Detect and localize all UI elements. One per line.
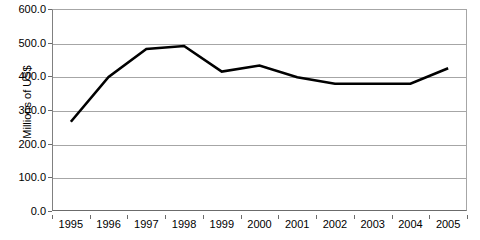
x-tick-mark: [241, 215, 242, 219]
x-tick-mark: [203, 215, 204, 219]
x-tick-label: 2003: [360, 218, 384, 230]
x-tick-label: 1998: [172, 218, 196, 230]
x-tick-mark: [127, 215, 128, 219]
x-tick-mark: [278, 215, 279, 219]
x-tick-label: 1999: [210, 218, 234, 230]
x-tick-mark: [90, 215, 91, 219]
series-line-millions-of-us: [71, 46, 448, 122]
x-tick-label: 2004: [398, 218, 422, 230]
x-tick-label: 2002: [323, 218, 347, 230]
data-series-line: [0, 0, 480, 240]
x-tick-label: 2000: [247, 218, 271, 230]
x-tick-mark: [392, 215, 393, 219]
x-tick-label: 1997: [134, 218, 158, 230]
x-axis-tick-labels: 1995199619971998199920002001200220032004…: [52, 215, 467, 237]
x-tick-mark: [52, 215, 53, 219]
x-tick-mark: [429, 215, 430, 219]
x-tick-label: 1996: [96, 218, 120, 230]
x-tick-mark: [316, 215, 317, 219]
x-tick-mark: [467, 215, 468, 219]
x-tick-label: 1995: [59, 218, 83, 230]
line-chart: Millions of US$ 600.0500.0400.0300.0200.…: [0, 0, 480, 240]
x-tick-label: 2001: [285, 218, 309, 230]
x-tick-label: 2005: [436, 218, 460, 230]
x-tick-mark: [165, 215, 166, 219]
x-tick-mark: [354, 215, 355, 219]
